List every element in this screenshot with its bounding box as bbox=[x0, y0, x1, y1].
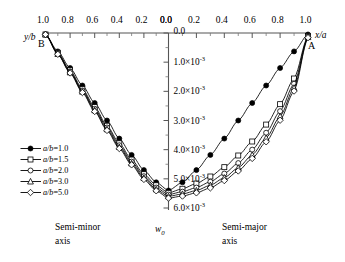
top-left-tick-label-1: 0.8 bbox=[62, 15, 74, 25]
legend-item-1-5[interactable]: a/b=1.5 bbox=[20, 154, 68, 165]
y-axis-tick-label-5: 5.0×10-3 bbox=[174, 172, 206, 184]
legend-label-1-5: a/b=1.5 bbox=[43, 155, 68, 164]
y-axis-tick-label-1: 1.0×10-3 bbox=[174, 55, 206, 67]
data-point-marker bbox=[27, 189, 33, 195]
y-axis-tick-exponent-4: -3 bbox=[200, 143, 205, 150]
data-point-marker bbox=[264, 83, 269, 88]
legend-item-2-0[interactable]: a/b=2.0 bbox=[20, 165, 68, 176]
y-axis-tick-exponent-2: -3 bbox=[200, 84, 205, 91]
left-caption-line1: Semi-minor bbox=[55, 222, 100, 232]
data-point-marker bbox=[222, 165, 227, 170]
data-point-marker bbox=[28, 157, 33, 162]
y-axis-tick-label-0: 0.0 bbox=[174, 26, 186, 36]
data-point-marker bbox=[28, 168, 33, 173]
top-left-tick-label-2: 0.6 bbox=[86, 15, 98, 25]
point-label-B: B bbox=[38, 38, 45, 49]
top-left-tick-label-4: 0.2 bbox=[135, 15, 147, 25]
left-caption-line2: axis bbox=[55, 236, 70, 246]
chart-figure: 1.00.80.60.40.20.0 0.20.40.60.81.00.0 0.… bbox=[0, 0, 345, 262]
legend-label-5-0: a/b=5.0 bbox=[43, 188, 68, 197]
data-point-marker bbox=[278, 102, 283, 107]
data-point-marker bbox=[129, 152, 134, 157]
legend-label-value: =2.0 bbox=[53, 166, 68, 175]
y-axis-tick-exponent-3: -3 bbox=[200, 114, 205, 121]
top-left-tick-label-0: 1.0 bbox=[37, 15, 49, 25]
top-right-tick-label-1: 0.2 bbox=[188, 15, 200, 25]
data-point-marker bbox=[292, 49, 297, 54]
legend-swatch-open-triangle bbox=[20, 176, 42, 187]
legend-label-symbol: a/b bbox=[43, 144, 53, 153]
top-right-tick-label-4: 0.8 bbox=[272, 15, 284, 25]
legend-swatch-open-square bbox=[20, 154, 42, 165]
legend-label-value: =1.0 bbox=[53, 144, 68, 153]
legend-item-1-0[interactable]: a/b=1.0 bbox=[20, 143, 68, 154]
data-point-marker bbox=[28, 146, 33, 151]
left-axis-title: y/b bbox=[24, 32, 36, 42]
y-axis-tick-label-4: 4.0×10-3 bbox=[174, 143, 206, 155]
top-right-tick-label-2: 0.4 bbox=[216, 15, 228, 25]
legend-swatch-open-diamond bbox=[20, 187, 42, 198]
y-axis-tick-label-2: 2.0×10-3 bbox=[174, 84, 206, 96]
legend-swatch-open-circle bbox=[20, 165, 42, 176]
legend-label-symbol: a/b bbox=[43, 188, 53, 197]
top-right-tick-label-0: 0.0 bbox=[160, 15, 172, 25]
legend-item-3-0[interactable]: a/b=3.0 bbox=[20, 176, 68, 187]
right-axis-title: x/a bbox=[315, 30, 327, 40]
legend: a/b=1.0a/b=1.5a/b=2.0a/b=3.0a/b=5.0 bbox=[20, 143, 68, 198]
deflection-symbol: w0 bbox=[155, 224, 165, 236]
chart-plot-area bbox=[0, 0, 345, 262]
legend-label-3-0: a/b=3.0 bbox=[43, 177, 68, 186]
data-point-marker bbox=[250, 101, 255, 106]
legend-label-symbol: a/b bbox=[43, 155, 53, 164]
deflection-symbol-subscript: 0 bbox=[161, 229, 164, 236]
data-point-marker bbox=[208, 174, 213, 179]
data-point-marker bbox=[208, 152, 213, 157]
right-caption-line1: Semi-major bbox=[222, 222, 267, 232]
legend-label-value: =1.5 bbox=[53, 155, 68, 164]
legend-label-symbol: a/b bbox=[43, 166, 53, 175]
legend-label-value: =3.0 bbox=[53, 177, 68, 186]
right-caption-line2: axis bbox=[222, 236, 237, 246]
data-point-marker bbox=[117, 136, 122, 141]
y-axis-tick-exponent-5: -3 bbox=[200, 172, 205, 179]
legend-swatch-filled-circle bbox=[20, 143, 42, 154]
y-axis-tick-exponent-1: -3 bbox=[200, 55, 205, 62]
legend-label-2-0: a/b=2.0 bbox=[43, 166, 68, 175]
top-right-tick-label-3: 0.6 bbox=[244, 15, 256, 25]
data-point-marker bbox=[222, 136, 227, 141]
legend-item-5-0[interactable]: a/b=5.0 bbox=[20, 187, 68, 198]
data-point-marker bbox=[250, 139, 255, 144]
top-left-tick-label-3: 0.4 bbox=[111, 15, 123, 25]
legend-label-symbol: a/b bbox=[43, 177, 53, 186]
data-point-marker bbox=[278, 66, 283, 71]
data-point-marker bbox=[105, 118, 110, 123]
y-axis-tick-exponent-6: -3 bbox=[200, 201, 205, 208]
data-point-marker bbox=[264, 122, 269, 127]
y-axis-tick-label-3: 3.0×10-3 bbox=[174, 114, 206, 126]
data-point-marker bbox=[236, 153, 241, 158]
data-point-marker bbox=[236, 118, 241, 123]
y-axis-tick-label-6: 6.0×10-3 bbox=[174, 201, 206, 213]
point-label-A: A bbox=[308, 40, 315, 51]
legend-label-value: =5.0 bbox=[53, 188, 68, 197]
top-right-tick-label-5: 1.0 bbox=[300, 15, 312, 25]
legend-label-1-0: a/b=1.0 bbox=[43, 144, 68, 153]
